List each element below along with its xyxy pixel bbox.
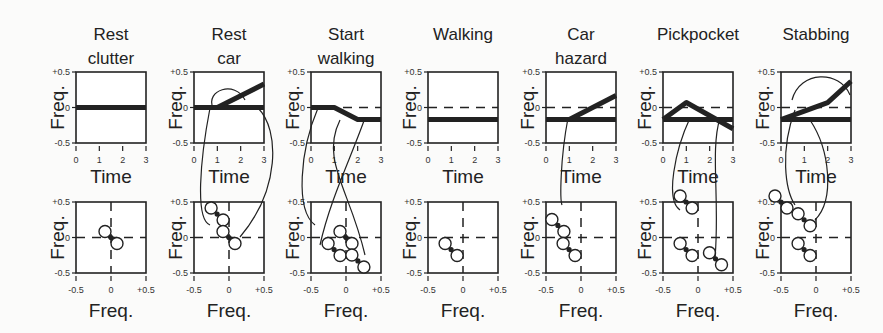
y-tick-label: -0.5: [406, 138, 422, 148]
y-tick-label: -0.5: [524, 268, 540, 278]
y-tick-label: -0.5: [641, 268, 657, 278]
panel-title-line1: Rest: [94, 25, 129, 44]
freq-freq-plot: +0.50-0.5-0.50+0.5Freq.Freq.: [517, 197, 625, 321]
x-axis-label: Time: [677, 166, 719, 187]
x-tick-label: 0: [308, 155, 313, 165]
time-freq-plot: +0.50-0.50123TimeFreq.: [399, 67, 501, 187]
x-tick-label: -0.5: [538, 285, 554, 295]
time-freq-plot: +0.50-0.50123TimeFreq.: [47, 67, 149, 187]
y-axis-label: Freq.: [752, 215, 773, 259]
x-tick-label: 2: [590, 155, 595, 165]
cluster-center-dot: [778, 199, 783, 204]
x-axis-label: Freq.: [559, 300, 603, 321]
x-tick-label: +0.5: [607, 285, 625, 295]
cluster-center-dot: [684, 247, 689, 252]
x-tick-label: 0: [778, 155, 783, 165]
x-tick-label: 2: [472, 155, 477, 165]
y-tick-label: -0.5: [289, 268, 305, 278]
freq-freq-plot: +0.50-0.5-0.50+0.5Freq.Freq.: [634, 190, 742, 321]
x-tick-label: 0: [460, 285, 465, 295]
x-tick-label: 2: [120, 155, 125, 165]
cluster-center-dot: [226, 235, 231, 240]
y-tick-label: -0.5: [524, 138, 540, 148]
y-tick-label: +0.5: [404, 197, 422, 207]
panel-0: Restclutter+0.50-0.50123TimeFreq.+0.50-0…: [47, 25, 155, 321]
x-tick-label: 1: [449, 155, 454, 165]
x-tick-label: 0: [543, 155, 548, 165]
y-axis-label: Freq.: [165, 215, 186, 259]
x-tick-label: 0: [226, 285, 231, 295]
x-tick-label: +0.5: [255, 285, 273, 295]
panel-6: Stabbing+0.50-0.50123TimeFreq.+0.50-0.5-…: [752, 25, 860, 321]
panel-title-line2: clutter: [88, 49, 135, 68]
x-tick-label: 1: [567, 155, 572, 165]
y-tick-label: +0.5: [287, 67, 305, 77]
figure: Restclutter+0.50-0.50123TimeFreq.+0.50-0…: [0, 0, 883, 333]
cluster-center-dot: [802, 247, 807, 252]
x-tick-label: 3: [495, 155, 500, 165]
x-tick-label: +0.5: [137, 285, 155, 295]
y-tick-label: -0.5: [759, 268, 775, 278]
x-tick-label: 2: [707, 155, 712, 165]
y-tick-label: -0.5: [172, 268, 188, 278]
panel-title-line1: Car: [567, 25, 595, 44]
x-tick-label: 0: [191, 155, 196, 165]
x-axis-label: Freq.: [794, 300, 838, 321]
freq-freq-plot: +0.50-0.5-0.50+0.5Freq.Freq.: [752, 190, 860, 321]
y-tick-label: +0.5: [757, 67, 775, 77]
x-tick-label: 2: [238, 155, 243, 165]
y-tick-label: +0.5: [52, 197, 70, 207]
y-axis-label: Freq.: [752, 85, 773, 129]
cluster-center-dot: [215, 211, 220, 216]
cluster-center-dot: [343, 235, 348, 240]
panel-title-line1: Stabbing: [782, 25, 849, 44]
panel-title-line2: hazard: [555, 49, 607, 68]
y-axis-label: Freq.: [399, 85, 420, 129]
x-axis-label: Freq.: [89, 300, 133, 321]
cluster-center-dot: [802, 217, 807, 222]
y-tick-label: +0.5: [639, 67, 657, 77]
time-freq-plot: +0.50-0.50123TimeFreq.: [282, 67, 384, 187]
x-axis-label: Time: [442, 166, 484, 187]
panel-5: Pickpocket+0.50-0.50123TimeFreq.+0.50-0.…: [634, 25, 742, 321]
x-tick-label: 0: [578, 285, 583, 295]
x-axis-label: Freq.: [441, 300, 485, 321]
x-tick-label: -0.5: [303, 285, 319, 295]
y-tick-label: -0.5: [54, 268, 70, 278]
x-tick-label: +0.5: [489, 285, 507, 295]
freq-freq-plot: +0.50-0.5-0.50+0.5Freq.Freq.: [165, 197, 273, 321]
time-freq-plot: +0.50-0.50123TimeFreq.: [517, 67, 619, 187]
panel-title-line1: Start: [328, 25, 364, 44]
freq-freq-plot: +0.50-0.5-0.50+0.5Freq.Freq.: [282, 197, 390, 321]
x-tick-label: 0: [695, 285, 700, 295]
time-freq-plot: +0.50-0.50123TimeFreq.: [634, 67, 736, 187]
x-tick-label: 3: [730, 155, 735, 165]
x-tick-label: 1: [802, 155, 807, 165]
cluster-center-dot: [567, 247, 572, 252]
y-tick-label: -0.5: [406, 268, 422, 278]
y-axis-label: Freq.: [282, 215, 303, 259]
x-tick-label: 1: [215, 155, 220, 165]
y-axis-label: Freq.: [47, 215, 68, 259]
y-tick-label: +0.5: [170, 197, 188, 207]
x-tick-label: 0: [343, 285, 348, 295]
panel-4: Carhazard+0.50-0.50123TimeFreq.+0.50-0.5…: [517, 25, 625, 321]
cluster-center-dot: [108, 235, 113, 240]
y-axis-label: Freq.: [634, 85, 655, 129]
x-axis-label: Time: [325, 166, 367, 187]
x-tick-label: 0: [425, 155, 430, 165]
y-tick-label: -0.5: [54, 138, 70, 148]
panel-title-line2: walking: [317, 49, 375, 68]
y-tick-label: +0.5: [170, 67, 188, 77]
y-tick-label: +0.5: [639, 197, 657, 207]
y-tick-label: -0.5: [641, 138, 657, 148]
freq-freq-plot: +0.50-0.5-0.50+0.5Freq.Freq.: [399, 197, 507, 321]
y-axis-label: Freq.: [634, 215, 655, 259]
time-freq-plot: +0.50-0.50123TimeFreq.: [165, 67, 267, 187]
cluster-center-dot: [332, 247, 337, 252]
x-tick-label: -0.5: [773, 285, 789, 295]
panel-1: Restcar+0.50-0.50123TimeFreq.+0.50-0.5-0…: [165, 25, 273, 321]
cluster-center-dot: [449, 247, 454, 252]
x-axis-label: Freq.: [324, 300, 368, 321]
y-axis-label: Freq.: [47, 85, 68, 129]
